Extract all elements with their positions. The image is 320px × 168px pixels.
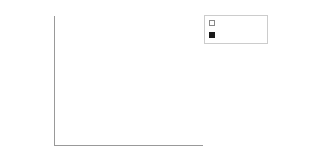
legend bbox=[204, 15, 268, 44]
legend-swatch-icon bbox=[209, 20, 215, 26]
legend-item-pre-rx bbox=[209, 20, 217, 26]
plot-area bbox=[54, 16, 203, 146]
legend-item-12-mo bbox=[209, 32, 217, 38]
legend-swatch-icon bbox=[209, 32, 215, 38]
